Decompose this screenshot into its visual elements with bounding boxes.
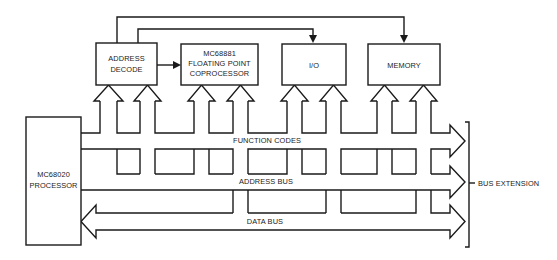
arrowhead-fpcp [173,61,181,69]
fc-top-seg-3 [155,101,194,133]
memory-label: MEMORY [387,61,421,70]
up-arrow-2 [134,85,161,101]
fc-top-seg-6 [302,101,326,133]
bus-extension-label: BUS EXTENSION [478,179,539,188]
fpcp-line1: MC68881 [203,49,236,58]
fc-top-seg-5 [248,101,287,133]
ab-top-7 [392,149,416,174]
processor-line1: MC68020 [37,170,70,179]
fpcp-line2: FLOATING POINT [188,59,251,68]
address-decode-line1: ADDRESS [108,54,144,63]
arrowhead-memory [400,35,408,43]
up-arrow-8 [410,85,437,101]
fc-bot-1 [81,149,140,174]
io-label: I/O [309,61,319,70]
up-arrow-5 [281,85,308,101]
buses [81,85,465,238]
system-block-diagram: ADDRESS DECODE MC68881 FLOATING POINT CO… [0,0,557,260]
fc-bot-4 [341,149,416,174]
up-arrow-4 [227,85,254,101]
function-codes-label: FUNCTION CODES [233,136,301,145]
up-arrow-3 [188,85,215,101]
block-address-decode: ADDRESS DECODE [96,43,157,85]
ab-top-3 [209,149,233,174]
address-decode-line2: DECODE [110,65,142,74]
select-line-io [138,29,313,43]
fc-top-seg-7 [341,101,377,133]
fpcp-line3: COPROCESSOR [190,69,249,78]
address-bus-label: ADDRESS BUS [239,177,293,186]
arrowhead-io [309,35,317,43]
block-processor: MC68020 PROCESSOR [26,117,81,245]
db-arrow [81,190,465,238]
block-fpcp: MC68881 FLOATING POINT COPROCESSOR [181,44,258,85]
block-io: I/O [282,44,346,85]
fc-top-seg-2 [117,101,140,133]
bus-extension-bracket [465,122,475,247]
up-arrow-6 [320,85,347,101]
select-line-memory [117,17,404,43]
fc-top-seg-1 [81,101,100,133]
block-memory: MEMORY [368,44,440,85]
processor-line2: PROCESSOR [29,181,77,190]
fc-top-seg-4 [209,101,233,133]
data-bus-label: DATA BUS [247,217,283,226]
ab-top-4 [248,149,287,174]
ab-top-1 [117,149,140,174]
fc-arrow [431,101,465,174]
chip-select-lines [117,17,408,69]
ab-top-5 [302,149,326,174]
db-top-right [341,190,416,213]
up-arrow-1 [94,85,123,101]
fc-top-seg-8 [392,101,416,133]
ab-top-2 [155,149,194,174]
ab-top-6 [341,149,377,174]
up-arrow-7 [371,85,398,101]
